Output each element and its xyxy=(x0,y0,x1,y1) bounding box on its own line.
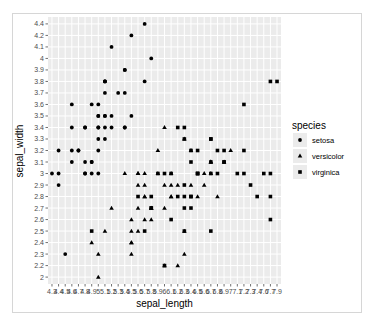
data-point-virginica xyxy=(209,229,213,233)
y-tick-label: 2.3 xyxy=(34,251,44,258)
data-point-setosa xyxy=(103,91,107,95)
data-point-virginica xyxy=(216,172,220,176)
data-point-virginica xyxy=(222,149,226,153)
data-point-virginica xyxy=(183,183,187,187)
data-point-setosa xyxy=(96,137,100,141)
legend-item-virginica: virginica xyxy=(293,165,340,179)
legend-title: species xyxy=(292,120,326,131)
data-point-setosa xyxy=(70,149,74,153)
data-point-virginica xyxy=(90,229,94,233)
data-point-setosa xyxy=(83,172,87,176)
data-point-virginica xyxy=(222,160,226,164)
legend-item-versicolor: versicolor xyxy=(293,149,345,163)
data-point-virginica xyxy=(183,229,187,233)
data-point-virginica xyxy=(189,160,193,164)
x-axis-title: sepal_length xyxy=(136,298,193,309)
data-point-virginica xyxy=(183,206,187,210)
legend: species setosa versicolor virginica xyxy=(292,120,345,179)
data-point-virginica xyxy=(183,137,187,141)
data-point-virginica xyxy=(269,195,273,199)
data-point-virginica xyxy=(183,126,187,130)
data-point-setosa xyxy=(57,149,61,153)
data-point-virginica xyxy=(262,172,266,176)
data-point-virginica xyxy=(236,172,240,176)
data-point-setosa xyxy=(96,103,100,107)
y-tick-label: 3.1 xyxy=(34,159,44,166)
data-point-virginica xyxy=(189,149,193,153)
y-tick-label: 2.5 xyxy=(34,228,44,235)
data-point-setosa xyxy=(50,172,54,176)
data-point-setosa xyxy=(103,80,107,84)
x-tick-label: 4.9 xyxy=(87,288,97,295)
x-tick-label: 7.9 xyxy=(272,288,282,295)
data-point-setosa xyxy=(103,137,107,141)
data-point-setosa xyxy=(83,160,87,164)
y-tick-label: 2.9 xyxy=(34,182,44,189)
data-point-setosa xyxy=(70,160,74,164)
data-point-setosa xyxy=(103,126,107,130)
data-point-virginica xyxy=(136,195,140,199)
data-point-setosa xyxy=(70,103,74,107)
legend-label: versicolor xyxy=(312,152,345,161)
data-point-setosa xyxy=(143,80,147,84)
legend-label: virginica xyxy=(312,168,340,177)
y-tick-label: 3.7 xyxy=(34,89,44,96)
data-point-virginica xyxy=(163,172,167,176)
y-tick-label: 2.6 xyxy=(34,216,44,223)
data-point-virginica xyxy=(255,195,259,199)
data-point-virginica xyxy=(163,264,167,268)
y-tick-label: 2.7 xyxy=(34,205,44,212)
data-point-setosa xyxy=(83,126,87,130)
y-tick-label: 3.9 xyxy=(34,66,44,73)
y-tick-label: 3.3 xyxy=(34,135,44,142)
y-tick-label: 3.4 xyxy=(34,124,44,131)
circle-icon xyxy=(298,138,302,142)
data-point-setosa xyxy=(90,160,94,164)
data-point-virginica xyxy=(242,172,246,176)
y-tick-label: 2.2 xyxy=(34,262,44,269)
data-point-virginica xyxy=(216,149,220,153)
x-axis: 4.34.44.54.64.74.84.955.15.25.35.45.55.6… xyxy=(47,284,282,295)
y-tick-label: 2 xyxy=(40,274,44,281)
data-point-virginica xyxy=(149,206,153,210)
y-tick-label: 2.4 xyxy=(34,239,44,246)
data-point-virginica xyxy=(176,195,180,199)
data-point-virginica xyxy=(249,183,253,187)
data-point-setosa xyxy=(123,68,127,72)
data-point-virginica xyxy=(189,195,193,199)
data-point-setosa xyxy=(130,114,134,118)
y-tick-label: 3 xyxy=(40,170,44,177)
scatter-chart: 22.22.32.42.52.62.72.82.933.13.23.33.43.… xyxy=(0,0,371,328)
data-point-virginica xyxy=(149,195,153,199)
y-tick-label: 4.2 xyxy=(34,32,44,39)
data-point-setosa xyxy=(110,126,114,130)
data-point-setosa xyxy=(123,91,127,95)
data-point-virginica xyxy=(269,80,273,84)
data-point-virginica xyxy=(275,80,279,84)
data-point-virginica xyxy=(169,218,173,222)
data-point-virginica xyxy=(169,172,173,176)
data-point-setosa xyxy=(57,172,61,176)
data-point-setosa xyxy=(77,149,81,153)
data-point-setosa xyxy=(110,45,114,49)
data-point-setosa xyxy=(90,172,94,176)
y-tick-label: 4 xyxy=(40,55,44,62)
data-point-virginica xyxy=(269,172,273,176)
data-point-virginica xyxy=(196,172,200,176)
y-tick-label: 4.4 xyxy=(34,20,44,27)
data-point-virginica xyxy=(242,149,246,153)
data-point-setosa xyxy=(63,252,67,256)
data-point-setosa xyxy=(116,91,120,95)
y-tick-label: 3.6 xyxy=(34,101,44,108)
data-point-setosa xyxy=(130,34,134,38)
data-point-setosa xyxy=(90,103,94,107)
data-point-virginica xyxy=(189,206,193,210)
data-point-virginica xyxy=(183,195,187,199)
data-point-setosa xyxy=(70,126,74,130)
data-point-setosa xyxy=(96,126,100,130)
legend-item-setosa: setosa xyxy=(293,133,335,147)
y-axis-title: sepal_width xyxy=(14,125,25,178)
data-point-virginica xyxy=(209,160,213,164)
data-point-virginica xyxy=(143,229,147,233)
data-point-setosa xyxy=(57,183,61,187)
